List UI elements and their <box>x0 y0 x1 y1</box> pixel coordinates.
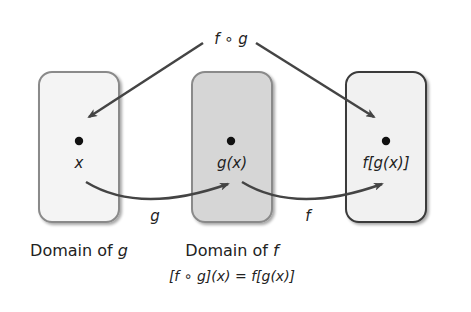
domain-g-box <box>39 72 119 222</box>
composition-label: f ∘ g <box>214 30 248 48</box>
point-gx <box>227 137 235 145</box>
range-box <box>346 72 426 222</box>
arrow-f-label: f <box>305 207 313 225</box>
point-fgx-label: f[g(x)] <box>362 154 409 172</box>
arrow-g-label: g <box>150 207 160 225</box>
point-x <box>75 137 83 145</box>
point-x-label: x <box>74 154 84 172</box>
point-gx-label: g(x) <box>217 154 247 172</box>
point-fgx <box>382 137 390 145</box>
composition-diagram: x g(x) f[g(x)] f ∘ g g f Domain of g Dom… <box>0 0 471 312</box>
composition-formula: [f ∘ g](x) = f[g(x)] <box>169 268 295 284</box>
caption-domain-f: Domain of f <box>185 241 281 260</box>
caption-domain-g: Domain of g <box>30 241 128 260</box>
domain-f-box <box>192 72 272 222</box>
